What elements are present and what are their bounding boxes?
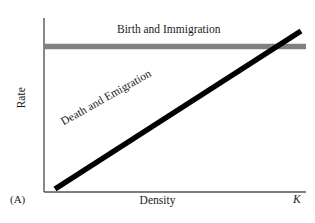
y-axis-title: Rate	[16, 70, 28, 126]
carrying-capacity-k-label: K	[293, 194, 301, 206]
birth-and-immigration-label: Birth and Immigration	[117, 24, 220, 36]
x-axis-title: Density	[0, 195, 315, 207]
figure-panel-a: Birth and Immigration Death and Emigrati…	[0, 0, 315, 223]
panel-label: (A)	[10, 194, 25, 205]
